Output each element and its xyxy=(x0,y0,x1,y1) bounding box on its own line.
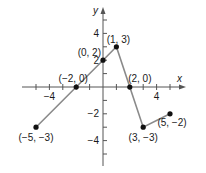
y-axis-arrow-icon xyxy=(101,7,106,14)
point-label: (−5, −3) xyxy=(18,132,53,143)
point-label: (5, −2) xyxy=(157,117,186,128)
point-label: (1, 3) xyxy=(107,34,130,45)
x-axis-label: x xyxy=(176,73,183,84)
y-tick-label: 4 xyxy=(93,28,99,39)
y-axis-label: y xyxy=(92,5,99,16)
point-label: (2, 0) xyxy=(128,73,151,84)
data-point xyxy=(33,125,38,130)
data-point xyxy=(167,111,172,116)
point-label: (3, −3) xyxy=(129,132,158,143)
x-axis-arrow-icon xyxy=(179,85,186,90)
data-point xyxy=(100,58,105,63)
data-point xyxy=(114,44,119,49)
x-tick-label: 4 xyxy=(154,91,160,102)
data-point xyxy=(141,125,146,130)
y-tick-label: −2 xyxy=(88,108,100,119)
x-tick-label: −4 xyxy=(44,91,56,102)
y-tick-label: −4 xyxy=(88,135,100,146)
point-label: (0, 2) xyxy=(78,47,101,58)
data-point xyxy=(127,84,132,89)
piecewise-linear-graph: −4442−2−4 (−5, −3)(−2, 0)(0, 2)(1, 3)(2,… xyxy=(0,0,206,173)
point-label: (−2, 0) xyxy=(59,73,88,84)
data-point xyxy=(74,84,79,89)
